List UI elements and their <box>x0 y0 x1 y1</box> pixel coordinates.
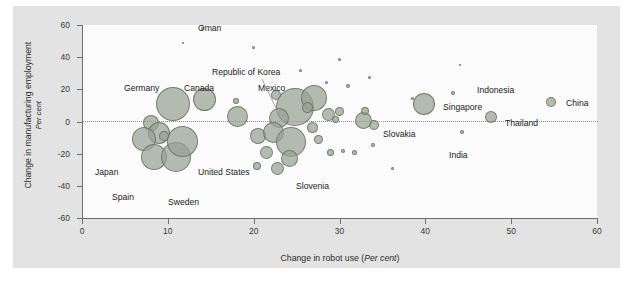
x-tick <box>511 219 512 224</box>
point-label-japan: Japan <box>95 168 118 177</box>
bubble-point <box>391 167 394 170</box>
chart-figure: -60-40-200204060 0102030405060 OmanGerma… <box>0 0 636 285</box>
x-tick <box>168 219 169 224</box>
x-tick-label: 20 <box>234 227 274 236</box>
bubble-point <box>253 162 261 170</box>
y-tick <box>77 57 82 58</box>
y-tick <box>77 122 82 123</box>
y-tick <box>77 186 82 187</box>
x-axis-title-unit: Per cent <box>364 253 396 263</box>
bubble-point <box>459 64 461 66</box>
bubble-point <box>233 98 239 104</box>
point-label-indonesia: Indonesia <box>477 86 514 95</box>
bubble-point <box>327 149 334 156</box>
point-label-singapore: Singapore <box>443 103 482 112</box>
x-tick <box>425 219 426 224</box>
x-tick <box>82 219 83 224</box>
point-label-mexico: Mexico <box>258 84 285 93</box>
bubble-slovenia <box>271 162 284 175</box>
y-axis-title: Change in manufacturing employment Per c… <box>23 20 43 210</box>
point-label-canada: Canada <box>184 84 214 93</box>
point-label-germany: Germany <box>124 84 159 93</box>
point-label-united-states: United States <box>198 168 250 177</box>
x-tick-label: 60 <box>577 227 617 236</box>
x-axis-title-paren: (Per cent) <box>361 253 399 263</box>
bubble-point <box>368 76 371 79</box>
x-tick-label: 40 <box>405 227 445 236</box>
point-label-republic-of-korea: Republic of Korea <box>212 68 280 77</box>
point-label-slovenia: Slovenia <box>296 182 329 191</box>
point-label-india: India <box>449 151 468 160</box>
bubble-united-states <box>167 126 198 157</box>
y-axis-title-main: Change in manufacturing employment <box>23 42 33 189</box>
y-tick <box>77 89 82 90</box>
bubble-point <box>260 146 273 159</box>
point-label-slovakia: Slovakia <box>383 130 415 139</box>
x-tick <box>340 219 341 224</box>
x-axis-title-main: Change in robot use <box>281 253 359 263</box>
bubble-point <box>307 122 318 133</box>
y-tick <box>77 25 82 26</box>
point-label-spain: Spain <box>112 193 134 202</box>
x-tick <box>254 219 255 224</box>
point-label-sweden: Sweden <box>168 198 199 207</box>
y-axis-line <box>82 25 83 219</box>
x-axis-title: Change in robot use (Per cent) <box>82 253 598 263</box>
x-tick-label: 30 <box>320 227 360 236</box>
point-label-oman: Oman <box>198 24 221 33</box>
bubble-point <box>371 143 375 147</box>
y-tick <box>77 154 82 155</box>
x-tick-label: 50 <box>491 227 531 236</box>
x-tick <box>597 219 598 224</box>
point-label-thailand: Thailand <box>505 119 538 128</box>
bubble-china <box>546 97 556 107</box>
y-tick-label: -60 <box>30 214 70 223</box>
x-tick-label: 10 <box>148 227 188 236</box>
point-label-china: China <box>566 99 588 108</box>
x-tick-label: 0 <box>62 227 102 236</box>
bubble-point <box>227 106 248 127</box>
y-axis-title-unit: Per cent <box>34 20 43 210</box>
